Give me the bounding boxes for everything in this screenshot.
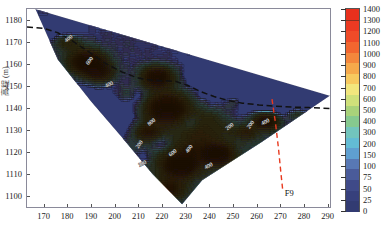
- colorbar-band: [346, 200, 359, 212]
- colorbar-band: [346, 62, 359, 74]
- x-tick-label: 270: [268, 211, 292, 221]
- colorbar-tick-mark: [341, 132, 346, 133]
- x-tick-mark: [257, 204, 258, 207]
- x-tick-label: 220: [150, 211, 174, 221]
- y-tick-mark: [27, 64, 30, 65]
- x-tick-label: 290: [316, 211, 340, 221]
- y-tick-mark: [27, 20, 30, 21]
- colorbar-tick-label: 900: [363, 60, 376, 70]
- x-tick-label: 190: [79, 211, 103, 221]
- y-tick-label: 1140: [0, 103, 22, 113]
- x-tick-mark: [233, 204, 234, 207]
- x-tick-mark: [138, 204, 139, 207]
- colorbar-tick-label: 50: [363, 184, 372, 194]
- colorbar-tick-mark: [341, 110, 346, 111]
- y-tick-mark: [27, 42, 30, 43]
- colorbar-tick-mark: [341, 31, 346, 32]
- colorbar-tick-label: 600: [363, 94, 376, 104]
- colorbar-tick-mark: [341, 177, 346, 178]
- x-tick-label: 170: [32, 211, 56, 221]
- x-tick-label: 180: [55, 211, 79, 221]
- x-tick-mark: [304, 204, 305, 207]
- colorbar-band: [346, 20, 359, 32]
- colorbar-band: [346, 137, 359, 149]
- colorbar-tick-mark: [341, 88, 346, 89]
- colorbar-tick-mark: [341, 76, 346, 77]
- colorbar-tick-mark: [341, 166, 346, 167]
- colorbar-tick-label: 1200: [363, 26, 380, 36]
- colorbar-band: [346, 9, 359, 20]
- x-tick-mark: [67, 204, 68, 207]
- colorbar-tick-label: 200: [363, 139, 376, 149]
- colorbar-tick-label: 1400: [363, 4, 380, 14]
- colorbar-tick-label: 150: [363, 150, 376, 160]
- colorbar-tick-label: 800: [363, 71, 376, 81]
- colorbar-tick-label: 300: [363, 127, 376, 137]
- y-tick-label: 1160: [0, 59, 22, 69]
- x-tick-label: 230: [174, 211, 198, 221]
- colorbar-tick-mark: [341, 99, 346, 100]
- y-tick-label: 1100: [0, 191, 22, 201]
- x-tick-label: 260: [245, 211, 269, 221]
- y-tick-label: 1120: [0, 147, 22, 157]
- x-tick-label: 210: [126, 211, 150, 221]
- colorbar-band: [346, 41, 359, 53]
- colorbar-tick-label: 75: [363, 172, 372, 182]
- colorbar-tick-label: 100: [363, 161, 376, 171]
- colorbar-band: [346, 168, 359, 180]
- y-tick-label: 1130: [0, 125, 22, 135]
- x-tick-label: 240: [197, 211, 221, 221]
- x-tick-mark: [186, 204, 187, 207]
- x-tick-mark: [162, 204, 163, 207]
- x-tick-mark: [91, 204, 92, 207]
- colorbar-band: [346, 94, 359, 106]
- figure-root: 高程 (m) 400600400800200100600400400200200…: [0, 0, 386, 241]
- colorbar-tick-label: 1100: [363, 38, 380, 48]
- y-tick-mark: [27, 174, 30, 175]
- colorbar-band: [346, 190, 359, 202]
- y-tick-mark: [27, 130, 30, 131]
- plot-area: 400600400800200100600400400200200400: [26, 8, 331, 208]
- y-tick-label: 1150: [0, 81, 22, 91]
- colorbar-tick-label: 1000: [363, 49, 380, 59]
- x-tick-mark: [280, 204, 281, 207]
- colorbar-tick-label: 25: [363, 195, 372, 205]
- colorbar-band: [346, 115, 359, 127]
- colorbar-band: [346, 105, 359, 117]
- colorbar-tick-mark: [341, 65, 346, 66]
- colorbar-tick-mark: [341, 121, 346, 122]
- colorbar-tick-mark: [341, 20, 346, 21]
- colorbar-tick-label: 400: [363, 116, 376, 126]
- colorbar-band: [346, 126, 359, 138]
- colorbar-tick-mark: [341, 155, 346, 156]
- colorbar: [345, 8, 360, 212]
- y-tick-label: 1170: [0, 37, 22, 47]
- colorbar-band: [346, 73, 359, 85]
- contour-field: 400600400800200100600400400200200400: [27, 9, 330, 207]
- y-tick-mark: [27, 86, 30, 87]
- x-tick-mark: [328, 204, 329, 207]
- colorbar-tick-mark: [341, 9, 346, 10]
- colorbar-band: [346, 179, 359, 191]
- colorbar-tick-mark: [341, 211, 346, 212]
- colorbar-tick-mark: [341, 144, 346, 145]
- colorbar-band: [346, 30, 359, 42]
- colorbar-tick-label: 700: [363, 83, 376, 93]
- colorbar-band: [346, 158, 359, 170]
- colorbar-band: [346, 52, 359, 64]
- y-tick-label: 1180: [0, 15, 22, 25]
- colorbar-tick-mark: [341, 54, 346, 55]
- colorbar-band: [346, 147, 359, 159]
- colorbar-tick-mark: [341, 200, 346, 201]
- x-tick-label: 200: [103, 211, 127, 221]
- x-tick-label: 280: [292, 211, 316, 221]
- y-tick-mark: [27, 152, 30, 153]
- y-tick-mark: [27, 196, 30, 197]
- y-tick-mark: [27, 108, 30, 109]
- x-tick-label: 250: [221, 211, 245, 221]
- x-tick-mark: [44, 204, 45, 207]
- fault-line-label: F9: [285, 188, 294, 198]
- colorbar-tick-label: 500: [363, 105, 376, 115]
- y-tick-label: 1110: [0, 169, 22, 179]
- colorbar-tick-mark: [341, 43, 346, 44]
